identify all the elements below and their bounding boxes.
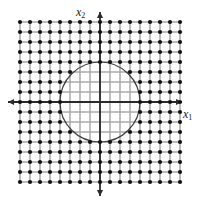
- axis-label-x1: x1: [183, 108, 192, 120]
- axis-label-x2-sub: 2: [81, 11, 85, 20]
- axis-label-x2: x2: [76, 6, 85, 18]
- lattice-circle-figure: x2 x1: [0, 0, 200, 204]
- axes: [8, 12, 182, 196]
- axis-label-x1-sub: 1: [188, 113, 192, 122]
- plot-canvas: [0, 0, 200, 204]
